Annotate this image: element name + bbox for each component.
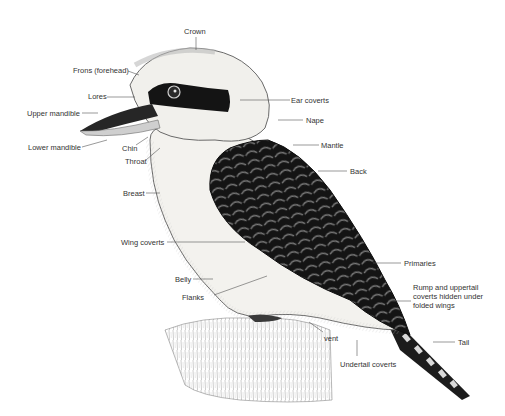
kookaburra-illustration	[0, 0, 505, 416]
label-throat: Throat	[125, 157, 147, 166]
label-breast: Breast	[123, 189, 145, 198]
label-chin: Chin	[122, 144, 137, 153]
label-upper-mandible: Upper mandible	[27, 109, 80, 118]
label-lower-mandible: Lower mandible	[28, 143, 81, 152]
label-belly: Belly	[175, 275, 191, 284]
label-frons: Frons (forehead)	[73, 66, 129, 75]
label-crown: Crown	[184, 27, 206, 36]
label-undertail-coverts: Undertail coverts	[340, 360, 396, 369]
label-tail: Tail	[458, 338, 469, 347]
label-nape: Nape	[306, 116, 324, 125]
label-primaries: Primaries	[404, 259, 436, 268]
label-vent: vent	[324, 334, 338, 343]
label-flanks: Flanks	[182, 293, 204, 302]
branch	[165, 318, 332, 402]
label-ear-coverts: Ear coverts	[291, 96, 329, 105]
label-lores: Lores	[88, 92, 107, 101]
label-back: Back	[350, 167, 367, 176]
label-mantle: Mantle	[321, 141, 344, 150]
label-rump-uppertail-coverts: Rump and uppertail coverts hidden under …	[413, 283, 493, 310]
label-wing-coverts: Wing coverts	[121, 238, 164, 247]
kookaburra-anatomy-diagram: Crown Frons (forehead) Lores Upper mandi…	[0, 0, 505, 416]
